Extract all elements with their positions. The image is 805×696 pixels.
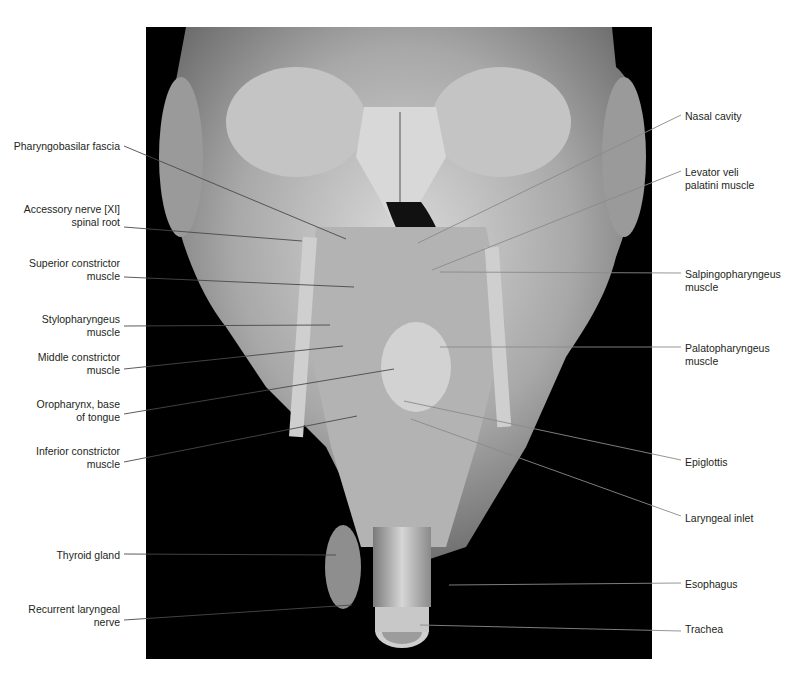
pharynx-specimen-illustration xyxy=(146,27,652,659)
label-right-6: Esophagus xyxy=(685,578,738,591)
label-right-3: Palatopharyngeus muscle xyxy=(685,342,770,368)
label-left-6: Inferior constrictor muscle xyxy=(36,445,120,471)
label-left-8: Recurrent laryngeal nerve xyxy=(28,603,120,629)
label-left-0: Pharyngobasilar fascia xyxy=(14,140,120,153)
label-right-2: Salpingopharyngeus muscle xyxy=(685,268,781,294)
label-left-3: Stylopharyngeus muscle xyxy=(42,313,120,339)
label-left-1: Accessory nerve [XI] spinal root xyxy=(24,203,120,229)
dissection-photograph xyxy=(146,27,652,659)
label-left-5: Oropharynx, base of tongue xyxy=(37,398,120,424)
label-left-7: Thyroid gland xyxy=(56,549,120,562)
label-right-7: Trachea xyxy=(685,623,723,636)
label-left-4: Middle constrictor muscle xyxy=(38,351,120,377)
label-right-0: Nasal cavity xyxy=(685,110,742,123)
label-right-4: Epiglottis xyxy=(685,456,728,469)
label-right-5: Laryngeal inlet xyxy=(685,512,753,525)
label-right-1: Levator veli palatini muscle xyxy=(685,166,754,192)
label-left-2: Superior constrictor muscle xyxy=(29,257,120,283)
